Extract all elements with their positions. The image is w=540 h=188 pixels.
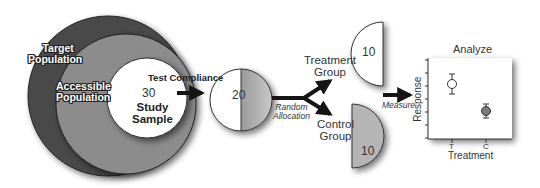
treatment-line2: Group xyxy=(304,66,356,78)
analyze-xlabel: Treatment xyxy=(448,151,493,162)
control-count: 10 xyxy=(361,145,374,158)
accessible-line2: Population xyxy=(56,92,111,103)
treatment-line1: Treatment xyxy=(304,54,356,66)
control-line1: Control xyxy=(317,118,354,130)
analyze-plot xyxy=(425,58,512,143)
study-line1: Study xyxy=(132,101,173,113)
target-population-label: Target Population xyxy=(28,43,82,65)
study-sample-label: Study Sample xyxy=(132,101,173,125)
random-allocation-label: Random Allocation xyxy=(273,103,310,121)
study-line2: Sample xyxy=(132,113,173,125)
test-compliance-label: Test Compliance xyxy=(148,73,223,83)
target-line2: Population xyxy=(28,54,82,65)
study-design-diagram: Target Population Accessible Population … xyxy=(0,0,540,188)
treatment-count: 10 xyxy=(362,46,375,59)
control-group-halfcircle xyxy=(352,104,384,168)
measure-label: Measure xyxy=(382,101,415,110)
control-group-label: Control Group xyxy=(317,118,354,142)
compliance-count: 20 xyxy=(232,89,245,102)
treatment-group-label: Treatment Group xyxy=(304,54,356,78)
accessible-population-label: Accessible Population xyxy=(56,81,111,103)
x-axis-ticks xyxy=(452,139,486,143)
control-line2: Group xyxy=(317,130,354,142)
allocation-line2: Allocation xyxy=(273,112,310,121)
study-sample-count: 30 xyxy=(142,87,155,100)
analyze-ylabel: Response xyxy=(413,77,424,122)
analyze-title: Analyze xyxy=(453,44,492,56)
